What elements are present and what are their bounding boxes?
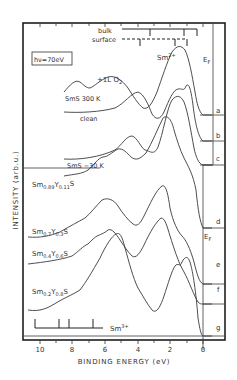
curve-d-Y011 <box>64 117 212 228</box>
x-tick-10: 10 <box>36 346 45 354</box>
bulk-markers <box>122 29 197 36</box>
curve-g-Y08 <box>28 234 212 336</box>
surface-label: surface <box>92 36 116 44</box>
curve-a-oxygen <box>64 46 212 115</box>
x-tick-8: 8 <box>70 346 74 354</box>
panel-c-label: c <box>216 155 220 163</box>
y-axis-title: INTENSITY (arb.u.) <box>12 151 20 230</box>
panel-e-label: e <box>216 261 220 269</box>
sm3-label: Sm3+ <box>110 323 129 333</box>
x-tick-6: 6 <box>103 346 108 354</box>
x-tick-0: 0 <box>201 346 205 354</box>
photon-energy-label: hν=70eV <box>34 56 64 64</box>
clean-label: clean <box>80 115 97 123</box>
oxygen-label: +1L O2 <box>97 76 122 85</box>
panel-b-label: b <box>216 132 221 140</box>
sample-f-label: Sm0.4Y0.6S <box>32 250 68 259</box>
ef-label-upper: EF <box>203 56 210 65</box>
sms-30k-label: SmS −30 K <box>67 162 104 170</box>
photoemission-chart: hν=70eV bulk surface Sm2+ EF EF +1L O2 S… <box>0 0 237 380</box>
sample-g-label: Sm0.2Y0.8S <box>32 288 68 297</box>
ef-label-lower: EF <box>204 233 211 242</box>
surface-markers <box>122 39 187 46</box>
curve-b-clean <box>64 85 212 141</box>
curve-c-30K <box>64 96 212 165</box>
sample-d-label: Sm0.89Y0.11S <box>32 180 75 190</box>
sms-300k-label: SmS 300 K <box>65 95 101 103</box>
bulk-label: bulk <box>98 27 112 35</box>
sm2-label: Sm2+ <box>157 52 176 62</box>
panel-g-label: g <box>216 324 220 332</box>
x-axis-title: BINDING ENERGY (eV) <box>78 358 171 366</box>
sample-e-label: Sm0.7Y0.3S <box>32 228 68 237</box>
panel-f-label: f <box>217 286 220 294</box>
panel-a-label: a <box>216 107 220 115</box>
x-tick-2: 2 <box>168 346 172 354</box>
x-tick-4: 4 <box>136 346 141 354</box>
sm3-markers <box>35 319 103 328</box>
panel-d-label: d <box>216 218 220 226</box>
